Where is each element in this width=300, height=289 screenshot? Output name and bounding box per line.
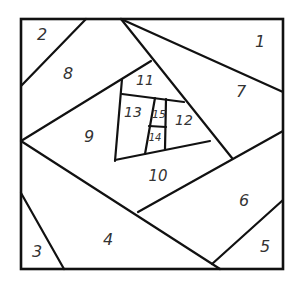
region-label-9: 9 (84, 127, 94, 146)
region-label-13: 13 (124, 104, 142, 120)
line-11-13-12 (122, 94, 184, 102)
quilt-block-diagram: 1 2 3 4 5 6 7 8 9 10 11 12 13 14 15 (0, 0, 300, 289)
line-3-4 (21, 193, 64, 269)
line-4-6-9-10 (21, 141, 220, 269)
region-label-4: 4 (103, 230, 113, 249)
region-label-1: 1 (255, 32, 265, 51)
dividing-lines (21, 19, 283, 269)
line-2-8 (21, 19, 86, 86)
region-label-5: 5 (260, 237, 270, 256)
line-12-15-14 (165, 99, 166, 149)
region-label-15: 15 (152, 108, 166, 121)
line-9-13-10 (115, 79, 122, 161)
region-label-14: 14 (149, 132, 162, 143)
region-label-11: 11 (136, 72, 154, 88)
region-label-7: 7 (236, 82, 247, 101)
line-14-15 (149, 126, 166, 127)
line-7-10-12 (121, 19, 232, 158)
region-label-12: 12 (175, 112, 193, 128)
region-label-6: 6 (239, 191, 249, 210)
region-label-10: 10 (148, 167, 167, 185)
region-label-2: 2 (37, 25, 47, 44)
region-label-8: 8 (63, 64, 73, 83)
region-label-3: 3 (32, 242, 42, 261)
line-5-6 (212, 200, 283, 264)
line-10-14-12 (115, 141, 210, 160)
